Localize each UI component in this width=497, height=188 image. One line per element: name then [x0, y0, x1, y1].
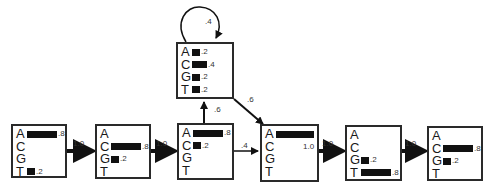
probability-value: 1.0	[303, 141, 314, 154]
probability-value: .2	[452, 155, 459, 168]
probability-bar	[443, 145, 473, 152]
probability-bar	[361, 157, 369, 164]
probability-bar	[27, 131, 57, 138]
state-s2: AC.8G.2T	[95, 124, 151, 179]
emission-base: T	[181, 84, 191, 97]
state-s5: ACG.2T.8	[345, 125, 402, 181]
probability-bar	[27, 168, 35, 175]
label-s5-s6: 1.0	[405, 139, 416, 148]
probability-bar	[443, 158, 451, 165]
label-s2-s3: 1.0	[156, 139, 167, 148]
probability-bar	[192, 86, 200, 93]
emission-row: T	[100, 166, 149, 179]
probability-value: .4	[208, 59, 215, 72]
label-s3-insert: .6	[214, 105, 221, 114]
state-s1: A.8CGT.2	[11, 124, 67, 178]
emission-row: T.8	[350, 167, 400, 180]
state-s3: A.8C.2GT	[177, 123, 234, 180]
emission-row: T	[265, 166, 317, 179]
probability-value: .2	[36, 166, 43, 179]
probability-bar	[111, 156, 119, 163]
probability-value: .8	[58, 128, 65, 141]
probability-bar	[361, 169, 391, 176]
probability-value: .2	[201, 84, 208, 97]
label-insert-s4: .6	[247, 95, 254, 104]
probability-value: .8	[224, 127, 231, 140]
probability-bar	[193, 130, 223, 137]
probability-bar	[192, 49, 200, 56]
probability-value: .2	[370, 154, 377, 167]
probability-bar	[276, 131, 314, 138]
state-s4: A1.0CGT	[260, 124, 319, 182]
label-s1-s2: 1.0	[73, 139, 84, 148]
state-s6: AC.8G.2T	[427, 126, 483, 181]
probability-bar	[111, 143, 141, 150]
probability-bar	[193, 142, 201, 149]
emission-base: T	[350, 167, 360, 180]
transition-edges	[0, 0, 497, 188]
state-insert: A.2C.4G.2T.2	[176, 42, 234, 99]
probability-bar	[192, 74, 200, 81]
probability-bar	[192, 61, 207, 68]
probability-value: .2	[201, 71, 208, 84]
probability-value: .8	[142, 141, 149, 154]
emission-base: T	[265, 166, 275, 179]
emission-row: T	[182, 165, 232, 178]
label-insert-self: .4	[205, 17, 212, 26]
emission-base: T	[16, 166, 26, 179]
emission-base: T	[432, 168, 442, 181]
probability-value: .2	[120, 153, 127, 166]
emission-row: T.2	[181, 84, 232, 97]
emission-row: T	[432, 168, 481, 181]
probability-value: .8	[392, 167, 399, 180]
edge-insert-self	[181, 7, 219, 42]
emission-base: T	[182, 165, 192, 178]
probability-value: .2	[201, 46, 208, 59]
emission-row: T.2	[16, 166, 65, 179]
label-s3-s4: .4	[241, 141, 248, 150]
probability-value: .2	[202, 140, 209, 153]
probability-value: .8	[474, 143, 481, 156]
label-s4-s5: 1.0	[322, 139, 333, 148]
emission-base: T	[100, 166, 110, 179]
